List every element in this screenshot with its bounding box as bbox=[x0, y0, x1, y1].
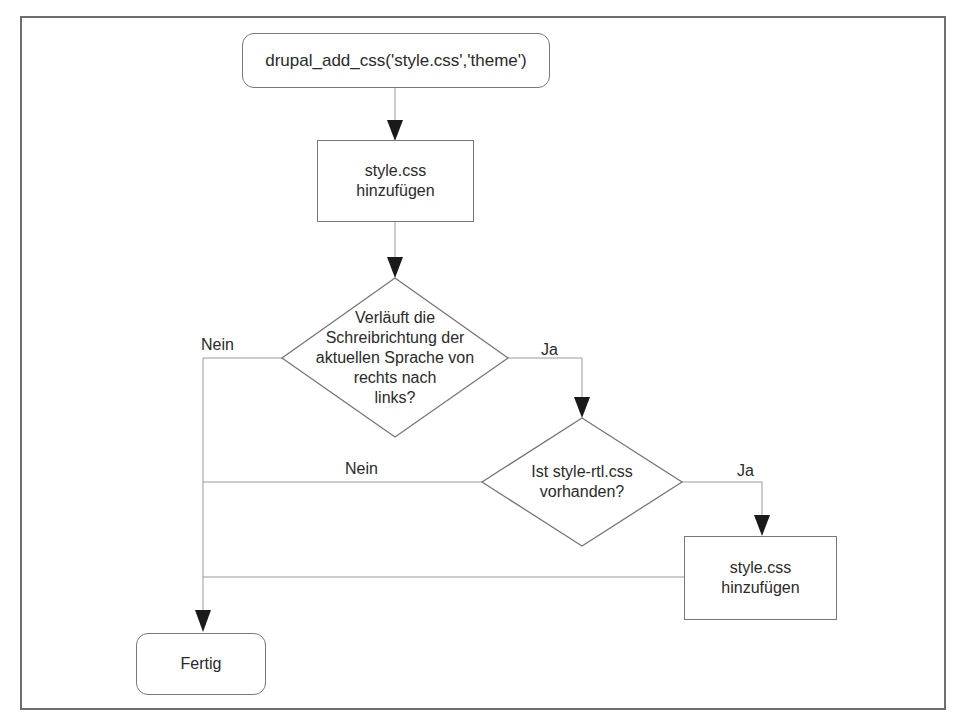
add-style-node-1-line2: hinzufügen bbox=[356, 181, 434, 201]
decision-rtl-text: Verläuft die Schreibrichtung der aktuell… bbox=[290, 308, 500, 408]
edge-rtl-no bbox=[203, 358, 282, 610]
decision-rtl-line4: rechts nach bbox=[290, 368, 500, 388]
edge-file-yes bbox=[682, 482, 762, 516]
end-node-label: Fertig bbox=[181, 654, 222, 674]
edge-label-file-yes: Ja bbox=[737, 462, 754, 480]
decision-file-text: Ist style-rtl.css vorhanden? bbox=[497, 462, 667, 502]
add-style-node-1: style.css hinzufügen bbox=[317, 140, 474, 222]
add-style-node-2-line1: style.css bbox=[721, 558, 799, 578]
end-node: Fertig bbox=[136, 633, 266, 695]
add-style-node-2: style.css hinzufügen bbox=[684, 536, 837, 620]
edge-rtl-yes bbox=[508, 358, 582, 398]
decision-file-line1: Ist style-rtl.css bbox=[497, 462, 667, 482]
edge-label-rtl-yes: Ja bbox=[541, 341, 558, 359]
edge-label-rtl-no: Nein bbox=[201, 336, 234, 354]
decision-rtl-line1: Verläuft die bbox=[290, 308, 500, 328]
add-style-node-2-line2: hinzufügen bbox=[721, 578, 799, 598]
decision-file-line2: vorhanden? bbox=[497, 482, 667, 502]
arrowhead-icon bbox=[574, 397, 590, 418]
start-node-label: drupal_add_css('style.css','theme') bbox=[265, 51, 526, 71]
edge-label-file-no: Nein bbox=[345, 460, 378, 478]
arrowhead-icon bbox=[195, 610, 211, 632]
decision-rtl-line2: Schreibrichtung der bbox=[290, 328, 500, 348]
add-style-node-1-line1: style.css bbox=[356, 161, 434, 181]
arrowhead-icon bbox=[387, 120, 403, 141]
start-node: drupal_add_css('style.css','theme') bbox=[242, 33, 550, 88]
arrowhead-icon bbox=[387, 257, 403, 278]
arrowhead-icon bbox=[754, 515, 770, 536]
decision-rtl-line3: aktuellen Sprache von bbox=[290, 348, 500, 368]
decision-rtl-line5: links? bbox=[290, 388, 500, 408]
